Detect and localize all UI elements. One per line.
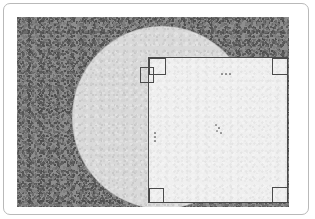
- dot-mark: [215, 124, 217, 126]
- fiducial-top-left-inner-icon: [140, 67, 154, 83]
- image-border: [3, 3, 309, 215]
- inscribed-sample-square: [148, 57, 288, 203]
- dot-mark: [218, 127, 220, 129]
- dot-mark: [154, 132, 156, 134]
- fiducial-bottom-left-icon: [149, 188, 164, 203]
- dot-mark: [154, 140, 156, 142]
- speckled-background-field: [17, 17, 289, 207]
- fiducial-bottom-right-icon: [272, 187, 288, 203]
- dot-mark: [216, 130, 218, 132]
- fiducial-top-right-icon: [272, 58, 288, 75]
- dot-mark: [229, 73, 231, 75]
- dot-mark: [225, 73, 227, 75]
- dot-mark: [220, 132, 222, 134]
- screenshot-root: [0, 0, 315, 219]
- circular-substrate: [72, 26, 252, 207]
- dot-mark: [221, 73, 223, 75]
- dot-mark: [154, 136, 156, 138]
